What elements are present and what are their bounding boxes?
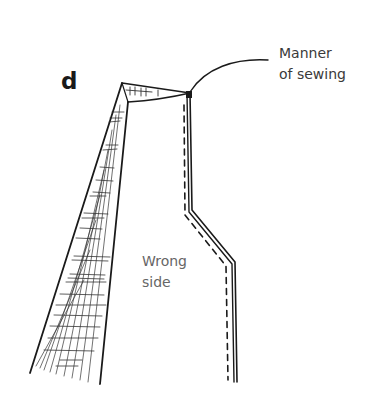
figure-letter: d — [61, 70, 77, 93]
callout-label-line2: of sewing — [279, 67, 346, 81]
facing-outer-edge — [30, 83, 122, 373]
facing-inner-curve — [128, 93, 190, 102]
seam-line-outer — [190, 93, 237, 382]
callout-label-line1: Manner — [279, 46, 332, 60]
callout-leader-line — [190, 60, 268, 92]
sewing-diagram: d Manner of sewing Wrong side — [0, 0, 365, 409]
garment-illustration — [0, 0, 365, 409]
facing-top-edge — [122, 83, 190, 93]
facing-fold-line — [122, 83, 128, 102]
region-label-line2: side — [142, 275, 171, 289]
region-label-line1: Wrong — [142, 254, 187, 268]
